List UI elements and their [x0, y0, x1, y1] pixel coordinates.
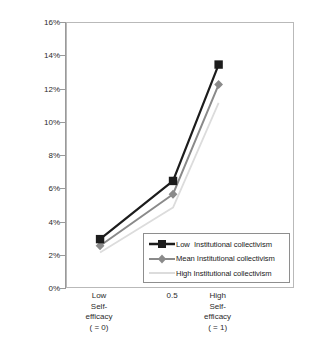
x-category-label-line: ( = 0)	[86, 323, 113, 334]
series-line-0	[100, 65, 219, 240]
x-category-label-line: Self-	[86, 302, 113, 313]
y-tick-mark	[60, 89, 65, 90]
legend-line-low-icon	[149, 239, 175, 250]
x-category-label-line: High	[204, 291, 231, 302]
x-category-label-line: efficacy	[86, 312, 113, 323]
legend-label-low: Low Institutional collectivism	[176, 240, 272, 249]
legend-marker-square-icon	[148, 238, 176, 251]
x-axis-tick-labels: LowSelf-efficacy( = 0)0.5HighSelf-effica…	[66, 291, 294, 351]
y-axis-title: Individuals' probability to engage in en…	[8, 0, 34, 46]
y-tick-label: 8%	[36, 151, 60, 160]
y-tick-label: 2%	[36, 250, 60, 259]
x-category-label-line: 0.5	[166, 291, 177, 302]
data-point-marker	[214, 80, 223, 89]
legend-line-high-icon	[149, 268, 175, 279]
chart-legend: Low Institutional collectivism Mean Inst…	[143, 233, 290, 283]
legend-marker-line-icon	[148, 267, 176, 280]
y-tick-label: 4%	[36, 217, 60, 226]
data-point-marker	[169, 177, 177, 185]
y-tick-mark	[60, 55, 65, 56]
x-category-label-0: LowSelf-efficacy( = 0)	[86, 291, 113, 333]
x-category-label-1: 0.5	[166, 291, 177, 302]
legend-label-high: High Institutional collectivism	[176, 269, 272, 278]
y-tick-label: 14%	[36, 51, 60, 60]
y-tick-label: 6%	[36, 184, 60, 193]
legend-item-mean: Mean Institutional collectivism	[148, 252, 285, 267]
data-point-marker	[214, 60, 222, 68]
y-tick-mark	[60, 288, 65, 289]
y-tick-mark	[60, 155, 65, 156]
y-tick-label: 10%	[36, 117, 60, 126]
y-tick-mark	[60, 122, 65, 123]
plot-area: Low Institutional collectivism Mean Inst…	[66, 22, 294, 288]
x-category-label-line: ( = 1)	[204, 323, 231, 334]
y-tick-mark	[60, 222, 65, 223]
chart-figure: Individuals' probability to engage in en…	[0, 0, 317, 356]
y-tick-label: 0%	[36, 284, 60, 293]
y-axis-tick-labels: 0%2%4%6%8%10%12%14%16%	[36, 22, 60, 288]
legend-label-mean: Mean Institutional collectivism	[176, 254, 275, 263]
data-point-marker	[96, 235, 104, 243]
legend-line-mean-icon	[149, 253, 175, 264]
x-category-label-line: Low	[86, 291, 113, 302]
y-tick-label: 16%	[36, 18, 60, 27]
legend-item-low: Low Institutional collectivism	[148, 237, 285, 252]
y-tick-mark	[60, 255, 65, 256]
y-tick-label: 12%	[36, 84, 60, 93]
legend-marker-diamond-icon	[148, 252, 176, 265]
x-category-label-line: efficacy	[204, 312, 231, 323]
y-tick-mark	[60, 22, 65, 23]
x-category-label-line: Self-	[204, 302, 231, 313]
y-tick-mark	[60, 188, 65, 189]
legend-item-high: High Institutional collectivism	[148, 266, 285, 281]
x-category-label-2: HighSelf-efficacy( = 1)	[204, 291, 231, 333]
